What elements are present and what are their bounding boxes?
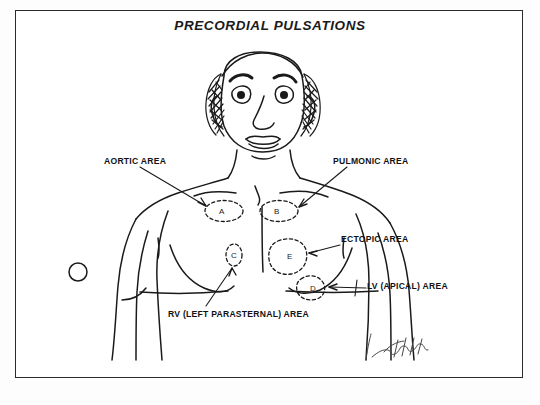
rib-margin-right [286,291,378,293]
artist-signature [366,334,428,360]
clavicle-left [194,192,236,196]
zone-label-b: B [274,207,279,216]
chest-side-left [157,211,168,360]
leader-pulmonic [299,167,347,207]
nipple-left [69,263,87,281]
zone-label-a: A [219,207,224,216]
precordial-pulsations-illustration [0,0,540,405]
label-lv-apical-area: LV (APICAL) AREA [367,281,448,291]
arrowhead-aortic [198,198,206,206]
chin-crease [252,156,275,159]
zone-label-d: D [310,284,316,293]
lip-lower [246,139,280,144]
label-aortic-area: AORTIC AREA [104,156,166,166]
lip-upper [246,136,280,139]
arrowhead-rv [229,268,236,276]
leader-lv [329,287,366,288]
figure-page: PRECORDIAL PULSATIONS [0,0,540,405]
pupil-right [280,91,288,99]
sternal-notch [255,186,260,205]
shoulder-right [300,178,390,223]
pectoral-left [170,245,234,292]
nose [253,96,274,129]
hairline-crown [222,53,303,77]
zone-label-e: E [287,252,292,261]
eyebrow-left [230,75,252,81]
arm-right-inner [378,233,391,360]
leader-rv [206,268,232,306]
label-ectopic-area: ECTOPIC AREA [341,234,408,244]
label-rv-parasternal-area: RV (LEFT PARASTERNAL) AREA [168,309,309,319]
neck-right [290,150,300,178]
arrowhead-ectopic [309,251,317,256]
label-pulmonic-area: PULMONIC AREA [333,156,409,166]
armpit-left [122,288,146,300]
eyebrow-right [274,75,296,82]
leader-aortic [140,167,206,206]
clavicle-right [280,191,328,197]
neck-left [228,150,237,178]
arm-left-outer [112,219,136,360]
zone-label-c: C [231,251,237,260]
shoulder-left [136,178,228,219]
pupil-left [237,91,245,99]
